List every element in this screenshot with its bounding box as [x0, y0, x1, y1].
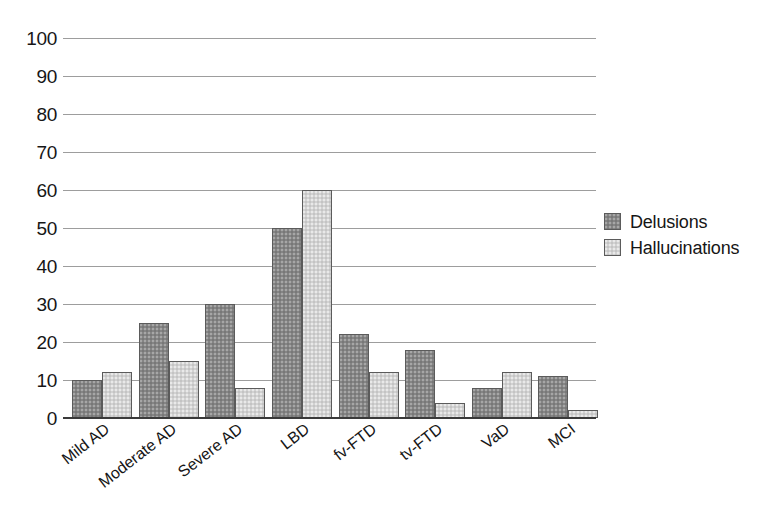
bar: [169, 361, 199, 418]
light-gray-swatch-icon: [604, 239, 621, 256]
y-axis-tick-label: 40: [5, 257, 57, 276]
bar: [302, 190, 332, 418]
y-axis-tick-label: 20: [5, 333, 57, 352]
bar: [72, 380, 102, 418]
bar: [472, 388, 502, 418]
y-axis-tick-label: 10: [5, 371, 57, 390]
plot-area: [63, 38, 596, 418]
bar: [502, 372, 532, 418]
y-axis-tick-label: 60: [5, 181, 57, 200]
chart-legend: DelusionsHallucinations: [604, 210, 769, 262]
bar: [139, 323, 169, 418]
legend-item-label: Delusions: [630, 213, 707, 231]
bar: [369, 372, 399, 418]
x-axis: Mild ADModerate ADSevere ADLBDfv-FTDtv-F…: [63, 420, 596, 530]
bar: [405, 350, 435, 418]
y-axis-tick-label: 0: [5, 409, 57, 428]
bar: [435, 403, 465, 418]
y-axis: 1009080706050403020100: [0, 0, 57, 532]
legend-item: Hallucinations: [604, 236, 769, 259]
y-axis-tick-label: 70: [5, 143, 57, 162]
y-axis-tick-label: 100: [5, 29, 57, 48]
y-axis-tick-label: 50: [5, 219, 57, 238]
y-axis-tick-label: 90: [5, 67, 57, 86]
y-axis-tick-label: 80: [5, 105, 57, 124]
bar: [339, 334, 369, 418]
bar: [205, 304, 235, 418]
bars-layer: [63, 38, 596, 418]
dark-gray-swatch-icon: [604, 213, 621, 230]
y-axis-tick-label: 30: [5, 295, 57, 314]
x-axis-line: [63, 417, 596, 419]
bar: [272, 228, 302, 418]
bar-chart: 1009080706050403020100 Mild ADModerate A…: [0, 0, 773, 532]
bar: [102, 372, 132, 418]
bar: [538, 376, 568, 418]
bar: [235, 388, 265, 418]
legend-item-label: Hallucinations: [630, 239, 739, 257]
legend-item: Delusions: [604, 210, 769, 233]
